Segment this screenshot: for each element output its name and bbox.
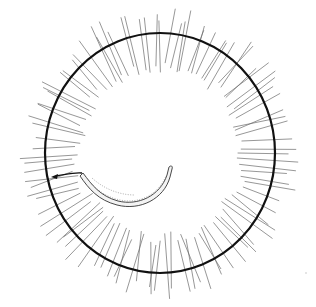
cilium: [63, 71, 99, 98]
cilia-group: [20, 9, 298, 299]
cilium: [178, 240, 190, 292]
cilium: [165, 233, 170, 299]
cilium: [38, 103, 86, 119]
cilium: [25, 176, 78, 182]
cilium: [63, 207, 103, 237]
cilium: [239, 164, 296, 171]
cilium: [171, 232, 172, 289]
cilium: [236, 121, 288, 136]
cilium: [66, 216, 108, 259]
cilium: [224, 63, 269, 97]
inner-body: [80, 166, 172, 207]
cilium: [24, 159, 72, 163]
cilium: [156, 14, 157, 66]
cilium: [235, 110, 283, 131]
cilium: [150, 245, 156, 287]
cilium: [236, 93, 280, 118]
cilium: [241, 171, 287, 174]
cilium: [243, 187, 279, 201]
cilium: [97, 37, 123, 83]
cilium: [242, 139, 293, 141]
cilium: [36, 138, 80, 144]
cilium: [192, 26, 205, 73]
speck: [305, 272, 307, 274]
cilium: [33, 147, 75, 149]
cilium: [241, 176, 289, 184]
cilium: [20, 155, 78, 159]
cilium: [179, 11, 191, 72]
cilium: [171, 23, 182, 68]
cilium: [181, 234, 201, 282]
cilium: [221, 42, 252, 88]
cilium: [233, 116, 285, 127]
cilium: [24, 164, 74, 172]
cilium: [121, 17, 134, 66]
cell-diagram: [0, 0, 316, 307]
cilium: [126, 234, 144, 292]
cilium: [207, 42, 234, 89]
cilium: [225, 198, 275, 230]
cilium: [234, 78, 275, 109]
cilium: [237, 158, 298, 162]
cilium: [114, 239, 132, 276]
cilium: [159, 21, 161, 73]
cilium: [238, 153, 289, 154]
cilium: [38, 104, 80, 126]
cilium: [186, 239, 195, 289]
cilium: [196, 33, 215, 75]
cilium: [125, 16, 139, 75]
